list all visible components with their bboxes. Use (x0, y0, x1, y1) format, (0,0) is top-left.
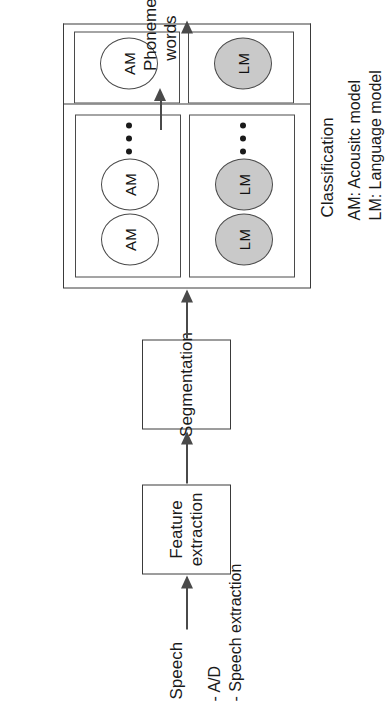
classification-group-outline-tail (63, 23, 311, 109)
am-unit-1[interactable]: AM (101, 213, 159, 265)
legend: AM: Acousitc model LM: Language model (345, 70, 387, 220)
classification-label: Classification (318, 117, 338, 217)
lm-row-ellipsis (240, 122, 246, 154)
node-feature-extraction[interactable]: Feature extraction (142, 484, 231, 574)
arrow-segmentation-to-classification (186, 291, 188, 338)
node-segmentation[interactable]: Segmentation (142, 339, 231, 429)
preprocessing-note: - A/D - Speech extraction (205, 563, 247, 701)
arrow-speech-to-feature (186, 577, 188, 629)
classification-group[interactable]: AM AM LM LM (63, 103, 311, 288)
am-row[interactable]: AM AM (75, 114, 181, 277)
lm-row[interactable]: LM LM (189, 114, 295, 277)
am-row-ellipsis (126, 122, 132, 154)
lm-unit-1[interactable]: LM (215, 213, 273, 265)
arrow-to-output-head (154, 88, 166, 101)
output-label: Phonemes words (141, 5, 181, 71)
lm-unit-2[interactable]: LM (215, 158, 273, 210)
input-label-speech: Speech (167, 641, 188, 699)
am-unit-2[interactable]: AM (101, 158, 159, 210)
arrow-to-output-shaft (160, 96, 162, 130)
arrow-feature-to-segmentation (186, 433, 188, 483)
